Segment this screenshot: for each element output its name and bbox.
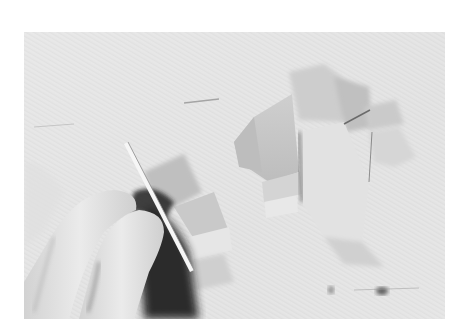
- photo-illustration: [24, 32, 445, 319]
- board-stain: [376, 287, 388, 295]
- caption: [24, 326, 445, 336]
- photo: [24, 32, 445, 319]
